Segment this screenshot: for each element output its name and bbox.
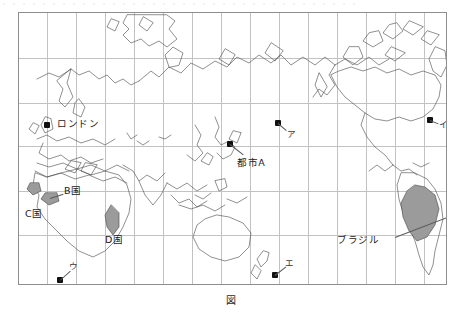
label-london: ロンドン (57, 119, 99, 129)
label-country-c: C国 (25, 209, 42, 219)
label-brazil: ブラジル (337, 235, 379, 245)
figure-caption: 図 (0, 292, 462, 307)
label-point-e: エ (285, 259, 294, 268)
label-point-a: ア (287, 130, 296, 139)
label-point-i: イ (439, 120, 447, 129)
coastline-layer (19, 13, 446, 284)
world-map[interactable]: ロンドン 都市A ア イ ウ エ B国 C国 D国 ブラジル (18, 12, 447, 285)
figure-root: ・・・・・・・・・・・・・・・・・・・・・・・・・・・・・・・・・・・・ (0, 0, 462, 314)
label-country-d: D国 (105, 235, 123, 245)
label-country-b: B国 (64, 186, 81, 196)
label-city-a: 都市A (237, 158, 265, 168)
cropped-header-text: ・・・・・・・・・・・・・・・・・・・・・・・・・・・・・・・・・・・・ (0, 0, 462, 9)
label-point-u: ウ (69, 262, 78, 271)
marker-london[interactable] (44, 122, 50, 128)
